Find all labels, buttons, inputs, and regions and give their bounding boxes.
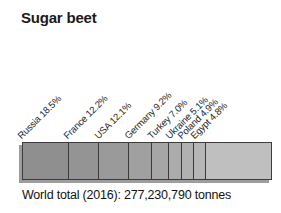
plot-area	[22, 142, 272, 180]
bar-segment-other	[206, 143, 271, 179]
bar-segment-usa	[99, 143, 129, 179]
bar-segment-germany	[129, 143, 152, 179]
bar-segment-egypt	[194, 143, 206, 179]
bar-segment-russia	[23, 143, 69, 179]
bar-segment-ukraine	[169, 143, 182, 179]
bar-segment-poland	[182, 143, 194, 179]
stacked-bar	[22, 142, 272, 180]
bar-segment-turkey	[152, 143, 169, 179]
bar-segment-france	[69, 143, 99, 179]
sugar-beet-stacked-bar-chart: Sugar beet Russia 18.5%France 12.2%USA 1…	[0, 0, 281, 213]
category-labels-layer: Russia 18.5%France 12.2%USA 12.1%Germany…	[0, 0, 281, 142]
chart-caption: World total (2016): 277,230,790 tonnes	[22, 188, 231, 203]
category-label-russia: Russia 18.5%	[16, 94, 63, 141]
